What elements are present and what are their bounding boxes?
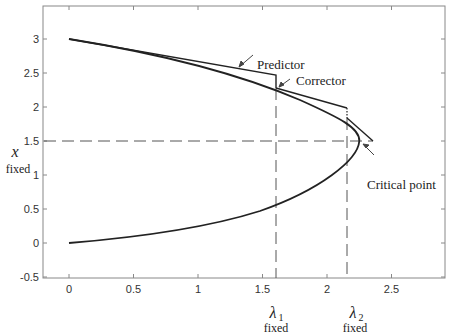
predictor-label: Predictor	[257, 57, 305, 72]
y-tick-label: 1	[33, 169, 39, 181]
critical-point-label: Critical point	[367, 177, 436, 192]
y-tick-label: 2	[33, 101, 39, 113]
y-tick-label: 3	[33, 33, 39, 45]
lambda1-symbol: λ	[269, 304, 277, 321]
lambda2-fixed-label: fixed	[343, 321, 368, 335]
y-tick-label: -0.5	[20, 271, 39, 283]
y-axis-label-main: x	[10, 143, 18, 160]
x-tick-label: 1	[195, 283, 201, 295]
x-tick-label: 2.5	[384, 283, 399, 295]
y-axis-label-sub: fixed	[6, 162, 31, 176]
y-tick-label: 2.5	[24, 67, 39, 79]
lambda1-marker: λ 1 fixed	[264, 304, 289, 335]
x-tick-label: 1.5	[255, 283, 270, 295]
predictor-corrector-chart: 0 0.5 1 1.5 2 2.5 -0.5 0 0.5 1 1.5 2 2.5…	[0, 0, 449, 336]
lambda2-marker: λ 2 fixed	[343, 304, 368, 335]
x-tick-label: 0.5	[126, 283, 141, 295]
x-tick-labels: 0 0.5 1 1.5 2 2.5	[66, 283, 399, 295]
y-tick-label: 0	[33, 237, 39, 249]
lambda1-fixed-label: fixed	[264, 321, 289, 335]
lambda2-symbol: λ	[349, 304, 357, 321]
predictor-corrector-path	[69, 39, 276, 88]
axes-frame	[43, 6, 445, 278]
predictor-step-3	[347, 118, 373, 141]
corrector-label: Corrector	[296, 73, 346, 88]
y-tick-label: 1.5	[24, 135, 39, 147]
y-axis-label: x fixed	[6, 143, 31, 176]
y-tick-labels: -0.5 0 0.5 1 1.5 2 2.5 3	[20, 33, 39, 283]
x-tick-label: 2	[324, 283, 330, 295]
y-tick-label: 0.5	[24, 203, 39, 215]
y-axis	[43, 39, 445, 277]
x-tick-label: 0	[66, 283, 72, 295]
